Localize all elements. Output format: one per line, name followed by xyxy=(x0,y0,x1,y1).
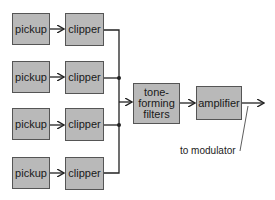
pickup-label: pickup xyxy=(15,24,47,35)
to-modulator-label: to modulator xyxy=(180,145,236,156)
clipper-label: clipper xyxy=(68,72,100,83)
clipper-box-3: clipper xyxy=(65,108,104,141)
clipper-box-1: clipper xyxy=(65,13,104,46)
clipper-box-4: clipper xyxy=(65,157,104,190)
amplifier-label: amplifier xyxy=(198,98,240,109)
clipper-box-2: clipper xyxy=(65,61,104,94)
pickup-label: pickup xyxy=(15,119,47,130)
clipper-label: clipper xyxy=(68,119,100,130)
pickup-box-3: pickup xyxy=(12,108,50,140)
pickup-box-4: pickup xyxy=(12,157,50,189)
filters-label-line3: filters xyxy=(143,109,169,120)
amplifier-box: amplifier xyxy=(196,86,242,120)
clipper-label: clipper xyxy=(68,168,100,179)
pickup-label: pickup xyxy=(15,72,47,83)
pickup-box-1: pickup xyxy=(12,13,50,45)
clipper-label: clipper xyxy=(68,24,100,35)
pickup-box-2: pickup xyxy=(12,61,50,93)
pickup-label: pickup xyxy=(15,168,47,179)
tone-forming-filters-box: tone- forming filters xyxy=(133,83,180,124)
